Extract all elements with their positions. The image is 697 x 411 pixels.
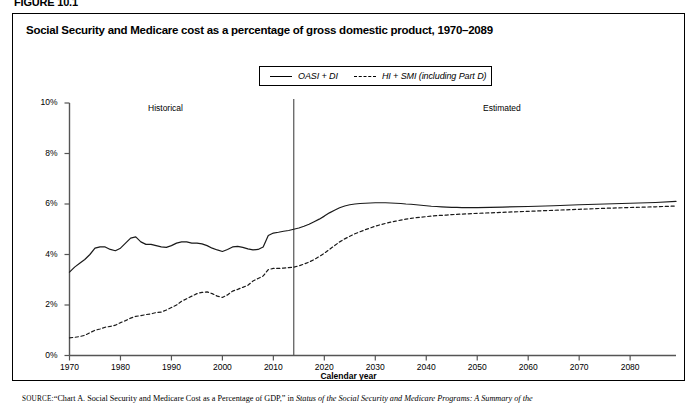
x-axis-label: 2060	[508, 362, 548, 372]
x-axis-label: 2050	[457, 362, 497, 372]
y-axis-label: 4%	[32, 249, 58, 259]
x-axis-label: 1990	[151, 362, 191, 372]
annotation-historical: Historical	[148, 103, 183, 113]
y-axis-label: 6%	[32, 198, 58, 208]
y-axis-label: 2%	[32, 299, 58, 309]
source-connector: in	[285, 394, 295, 403]
x-axis-label: 1970	[50, 362, 90, 372]
annotation-estimated: Estimated	[483, 103, 521, 113]
x-axis-label: 2080	[610, 362, 650, 372]
source-prefix: SOURCE:	[22, 395, 54, 403]
legend-item-oasi-di: OASI + DI	[270, 71, 338, 81]
x-axis-title: Calendar year	[0, 371, 697, 381]
source-note: SOURCE:“Chart A. Social Security and Med…	[22, 394, 533, 403]
chart-legend: OASI + DI HI + SMI (including Part D)	[259, 66, 492, 86]
x-axis-label: 1980	[100, 362, 140, 372]
legend-label-oasi-di: OASI + DI	[298, 71, 338, 81]
y-axis-label: 10%	[32, 97, 58, 107]
figure-title: Social Security and Medicare cost as a p…	[26, 24, 493, 36]
y-axis-label: 8%	[32, 148, 58, 158]
legend-item-hi-smi: HI + SMI (including Part D)	[354, 71, 487, 81]
x-axis-label: 2000	[202, 362, 242, 372]
source-italic-title: Status of the Social Security and Medica…	[296, 394, 533, 403]
x-axis-label: 2010	[253, 362, 293, 372]
x-axis-label: 2020	[304, 362, 344, 372]
legend-label-hi-smi: HI + SMI (including Part D)	[382, 71, 487, 81]
x-axis-label: 2030	[355, 362, 395, 372]
source-quoted: “Chart A. Social Security and Medicare C…	[54, 394, 286, 403]
x-axis-label: 2040	[406, 362, 446, 372]
x-axis-label: 2070	[559, 362, 599, 372]
figure-number: FIGURE 10.1	[14, 0, 78, 8]
solid-line-icon	[270, 72, 292, 81]
y-axis-label: 0%	[32, 350, 58, 360]
dashed-line-icon	[354, 72, 376, 81]
